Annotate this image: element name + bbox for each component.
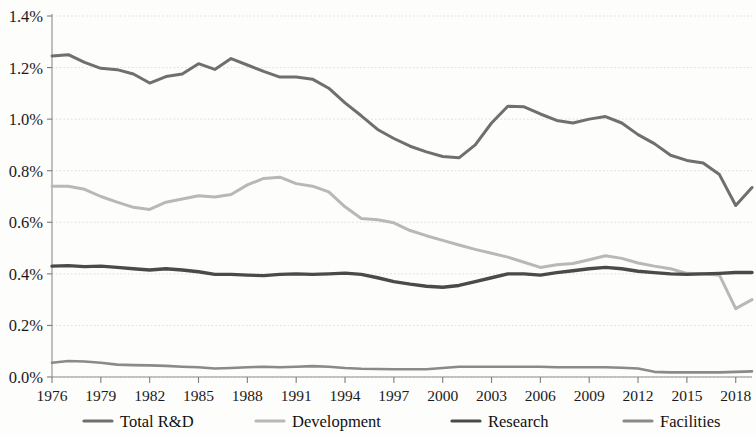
series-line-total-r-d (52, 55, 752, 206)
legend-label-research: Research (488, 412, 549, 431)
x-axis-tick-label: 1991 (281, 387, 312, 404)
x-axis-tick-label: 1997 (378, 387, 409, 404)
x-axis-tick-label: 2006 (525, 387, 556, 404)
y-axis-tick-label: 0.0% (9, 368, 44, 387)
y-axis-tick-label: 1.4% (9, 7, 44, 26)
x-tickmarks-group (52, 377, 736, 383)
x-axis-tick-label: 2000 (427, 387, 458, 404)
series-line-facilities (52, 361, 752, 372)
line-chart: 0.0%0.2%0.4%0.6%0.8%1.0%1.2%1.4% 1976197… (0, 0, 756, 437)
x-axis-tick-label: 2018 (720, 387, 751, 404)
y-axis-tick-label: 0.2% (9, 316, 44, 335)
legend-label-total-r-d: Total R&D (120, 412, 194, 431)
y-axis-tick-label: 1.2% (9, 59, 44, 78)
series-line-development (52, 177, 752, 309)
x-axis-tick-label: 1976 (37, 387, 68, 404)
x-axis-tick-label: 2012 (623, 387, 654, 404)
x-axis-tick-label: 2009 (574, 387, 605, 404)
legend-label-facilities: Facilities (660, 412, 721, 431)
chart-legend: Total R&DDevelopmentResearchFacilities (84, 412, 721, 431)
x-axis-tick-label: 1985 (183, 387, 214, 404)
series-line-research (52, 266, 752, 288)
y-axis-tick-label: 0.4% (9, 265, 44, 284)
x-axis-tick-label: 2015 (671, 387, 702, 404)
axis-lines-group (47, 14, 752, 377)
chart-plot-area: 0.0%0.2%0.4%0.6%0.8%1.0%1.2%1.4% 1976197… (0, 0, 756, 437)
y-axis-tick-label: 0.8% (9, 162, 44, 181)
x-axis-tick-label: 2003 (476, 387, 507, 404)
data-series-group (52, 55, 752, 373)
legend-label-development: Development (292, 412, 381, 431)
x-axis-tick-label: 1979 (85, 387, 116, 404)
y-axis-tick-label: 1.0% (9, 110, 44, 129)
y-axis-tick-labels: 0.0%0.2%0.4%0.6%0.8%1.0%1.2%1.4% (9, 7, 44, 387)
gridlines-group (52, 16, 752, 377)
y-axis-tick-label: 0.6% (9, 213, 44, 232)
x-axis-tick-label: 1988 (232, 387, 263, 404)
x-axis-tick-label: 1982 (134, 387, 165, 404)
x-axis-tick-labels: 1976197919821985198819911994199720002003… (37, 387, 752, 404)
x-axis-tick-label: 1994 (330, 387, 361, 404)
